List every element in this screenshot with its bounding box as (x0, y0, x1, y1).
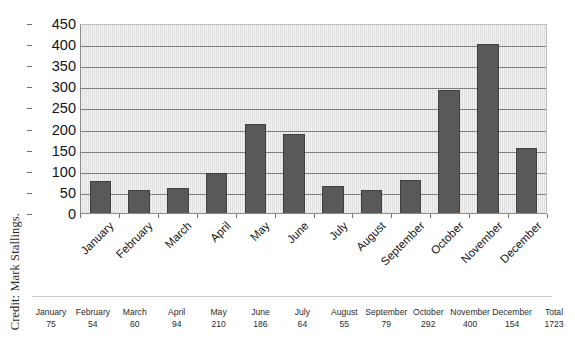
x-axis-tick-label: December (499, 220, 545, 266)
bar-group (120, 25, 159, 213)
table-value-cell: 75 (30, 318, 72, 330)
bar-group (236, 25, 275, 213)
bar-group (275, 25, 314, 213)
table-header-cell: December (491, 306, 533, 318)
bar-group (81, 25, 120, 213)
x-axis-tick-label: August (355, 220, 388, 253)
x-axis-tick-label: October (429, 220, 466, 257)
bar[interactable] (128, 190, 150, 213)
table-value-cell: 54 (72, 318, 114, 330)
x-axis-tick-label: June (285, 220, 311, 246)
x-axis-tick-label: March (163, 220, 194, 251)
table-value-cell: 79 (365, 318, 407, 330)
table-column: February54 (72, 306, 114, 331)
y-axis-tick-label: 250 (34, 101, 76, 116)
table-column: Total1723 (533, 306, 575, 331)
table-value-cell: 210 (198, 318, 240, 330)
table-column: April94 (156, 306, 198, 331)
bar[interactable] (400, 180, 422, 213)
bar-group (314, 25, 353, 213)
bar-group (158, 25, 197, 213)
y-axis-tick-label: 200 (34, 122, 76, 137)
y-axis-tick-label: 300 (34, 80, 76, 95)
credit-label: Credit: Mark Stallings. (8, 191, 23, 330)
table-column: March60 (114, 306, 156, 331)
y-axis-tick (27, 214, 32, 215)
y-axis-tick (27, 24, 32, 25)
table-value-cell: 400 (449, 318, 491, 330)
y-axis: 050100150200250300350400450 (32, 24, 76, 214)
y-axis-tick (27, 130, 32, 131)
table-header-cell: June (240, 306, 282, 318)
table-header-cell: August (323, 306, 365, 318)
bar[interactable] (438, 90, 460, 213)
y-axis-tick-label: 400 (34, 38, 76, 53)
table-column: November400 (449, 306, 491, 331)
bar[interactable] (322, 186, 344, 213)
table-column: September79 (365, 306, 407, 331)
bar[interactable] (477, 44, 499, 213)
table-value-cell: 292 (407, 318, 449, 330)
y-axis-tick (27, 45, 32, 46)
x-axis-tick-label: January (79, 220, 116, 257)
table-header-cell: September (365, 306, 407, 318)
table-value-cell: 154 (491, 318, 533, 330)
x-axis-labels: JanuaryFebruaryMarchAprilMayJuneJulyAugu… (80, 216, 547, 296)
bar-group (469, 25, 508, 213)
table-value-cell: 55 (323, 318, 365, 330)
table-header-cell: Total (533, 306, 575, 318)
table-separator-rule (32, 296, 552, 297)
y-axis-tick-label: 0 (34, 207, 76, 222)
table-column: May210 (198, 306, 240, 331)
bar-chart-figure: 050100150200250300350400450 JanuaryFebru… (32, 0, 575, 300)
bar[interactable] (361, 190, 383, 213)
x-axis-tick-label: February (114, 220, 155, 261)
table-header-cell: February (72, 306, 114, 318)
bar-group (352, 25, 391, 213)
y-axis-tick (27, 66, 32, 67)
bar[interactable] (206, 173, 228, 213)
table-column: June186 (240, 306, 282, 331)
y-axis-tick-label: 100 (34, 165, 76, 180)
x-axis-tick-label: July (327, 220, 350, 243)
y-axis-tick (27, 108, 32, 109)
bar-group (507, 25, 546, 213)
table-header-cell: October (407, 306, 449, 318)
table-header-cell: January (30, 306, 72, 318)
data-table: January75February54March60April94May210J… (30, 306, 575, 331)
table-value-cell: 94 (156, 318, 198, 330)
y-axis-tick-label: 150 (34, 143, 76, 158)
table-column: December154 (491, 306, 533, 331)
bar[interactable] (283, 134, 305, 213)
table-column: October292 (407, 306, 449, 331)
table-header-cell: May (198, 306, 240, 318)
y-axis-tick-label: 350 (34, 59, 76, 74)
bar[interactable] (90, 181, 112, 213)
table-header-cell: July (281, 306, 323, 318)
table-value-cell: 1723 (533, 318, 575, 330)
table-column: August55 (323, 306, 365, 331)
y-axis-tick-label: 50 (34, 186, 76, 201)
bar-group (197, 25, 236, 213)
x-axis-tick-label: November (460, 220, 506, 266)
bar[interactable] (245, 124, 267, 213)
plot-area (80, 24, 547, 214)
y-axis-tick-label: 450 (34, 17, 76, 32)
x-axis-tick (547, 214, 548, 218)
credit-line: Credit: Mark Stallings. (0, 0, 30, 330)
x-axis-tick-label: May (248, 220, 272, 244)
x-axis-tick-label: April (208, 220, 232, 244)
table-header-cell: November (449, 306, 491, 318)
y-axis-tick (27, 151, 32, 152)
y-axis-tick (27, 172, 32, 173)
bar[interactable] (516, 148, 538, 213)
y-axis-tick (27, 193, 32, 194)
table-value-cell: 64 (281, 318, 323, 330)
y-axis-tick (27, 87, 32, 88)
table-header-cell: March (114, 306, 156, 318)
table-column: January75 (30, 306, 72, 331)
bar-group (391, 25, 430, 213)
bar-group (430, 25, 469, 213)
bar[interactable] (167, 188, 189, 213)
bars-series (81, 25, 546, 213)
